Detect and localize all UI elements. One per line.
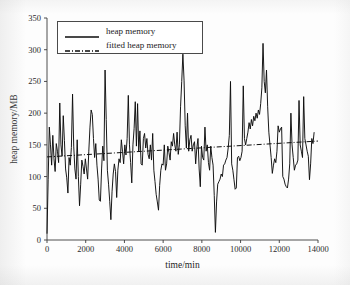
x-tick-label: 6000 bbox=[155, 244, 172, 254]
legend-label-fitted-heap-memory: fitted heap memory bbox=[106, 40, 176, 50]
legend-entry-heap-memory: heap memory bbox=[58, 24, 202, 38]
legend-swatch-solid bbox=[64, 27, 100, 35]
y-tick-label: 350 bbox=[28, 13, 41, 23]
x-tick-label: 4000 bbox=[116, 244, 133, 254]
series-heap-memory bbox=[47, 43, 314, 233]
x-tick-label: 0 bbox=[45, 244, 49, 254]
legend-label-heap-memory: heap memory bbox=[106, 26, 155, 36]
y-tick-label: 200 bbox=[28, 108, 41, 118]
y-tick-label: 100 bbox=[28, 172, 41, 182]
y-tick-label: 50 bbox=[33, 203, 42, 213]
x-tick-label: 12000 bbox=[269, 244, 290, 254]
chart-legend: heap memory fitted heap memory bbox=[57, 21, 203, 54]
x-tick-label: 14000 bbox=[307, 244, 328, 254]
x-tick-label: 8000 bbox=[193, 244, 210, 254]
y-axis-title: heap memory/MB bbox=[9, 94, 19, 163]
legend-entry-fitted-heap-memory: fitted heap memory bbox=[58, 38, 202, 52]
x-tick-label: 2000 bbox=[77, 244, 94, 254]
legend-swatch-dashdot bbox=[64, 41, 100, 49]
x-axis-title: time/min bbox=[165, 260, 200, 270]
y-tick-label: 150 bbox=[28, 140, 41, 150]
y-tick-label: 250 bbox=[28, 76, 41, 86]
x-tick-label: 10000 bbox=[230, 244, 251, 254]
y-tick-label: 300 bbox=[28, 45, 41, 55]
y-tick-label: 0 bbox=[37, 235, 41, 245]
figure-panel: 0501001502002503003500200040006000800010… bbox=[0, 0, 350, 285]
